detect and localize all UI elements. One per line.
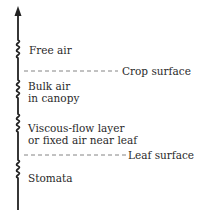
resistance-pathway-diagram (0, 0, 209, 217)
layer-label-free-air: Free air (29, 44, 72, 56)
boundary-label-crop-surface: Crop surface (122, 65, 191, 77)
arrow-up-icon (15, 6, 22, 16)
pathway-line (17, 14, 20, 210)
layer-label-stomata: Stomata (28, 172, 72, 184)
boundary-label-leaf-surface: Leaf surface (128, 149, 194, 161)
layer-label-viscous-line2: or fixed air near leaf (28, 134, 137, 146)
layer-label-bulk-air-line2: in canopy (28, 92, 79, 104)
layer-label-viscous-line1: Viscous-flow layer (28, 122, 124, 134)
layer-label-bulk-air-line1: Bulk air (28, 80, 70, 92)
